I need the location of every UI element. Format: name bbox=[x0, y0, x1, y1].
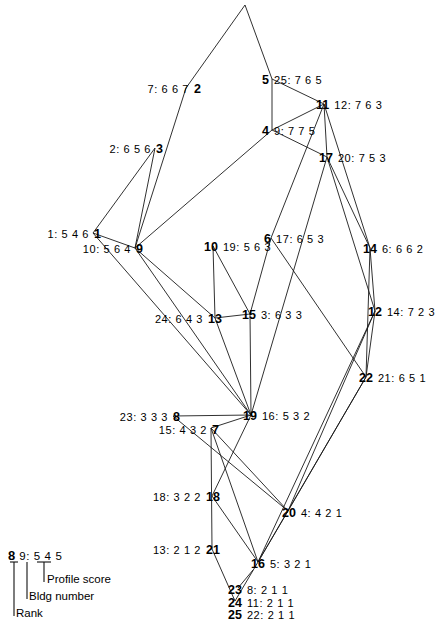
node-label-rank-17: 1720: 7 5 3 bbox=[319, 149, 386, 165]
node-label-rank-19: 1916: 5 3 2 bbox=[243, 407, 310, 423]
node-rank-15: 15 bbox=[242, 308, 256, 322]
edge-3-1 bbox=[93, 148, 155, 233]
node-profile-2: 7: 6 6 7 bbox=[148, 83, 190, 95]
node-rank-16: 16 bbox=[251, 557, 265, 571]
node-label-rank-9: 10: 5 6 49 bbox=[83, 240, 143, 256]
node-rank-12: 12 bbox=[368, 305, 382, 319]
node-profile-16: 5: 3 2 1 bbox=[270, 558, 312, 570]
node-profile-19: 16: 5 3 2 bbox=[262, 410, 310, 422]
node-label-rank-4: 49: 7 7 5 bbox=[262, 122, 315, 138]
node-profile-3: 2: 6 5 6 bbox=[110, 143, 152, 155]
edge-10-13 bbox=[213, 246, 215, 318]
node-profile-6: 17: 6 5 3 bbox=[276, 233, 324, 245]
legend-bldg-number-label: Bldg number bbox=[29, 590, 94, 602]
edge-13-19 bbox=[215, 318, 251, 415]
node-profile-1: 1: 5 4 6 bbox=[48, 228, 90, 240]
node-profile-4: 9: 7 7 5 bbox=[274, 125, 316, 137]
node-rank-20: 20 bbox=[282, 506, 296, 520]
edge-9-13 bbox=[135, 248, 215, 318]
edge-17-14 bbox=[327, 157, 370, 248]
node-rank-3: 3 bbox=[156, 142, 163, 156]
node-profile-13: 24: 6 4 3 bbox=[155, 313, 203, 325]
diagram-canvas: 7: 6 6 72 525: 7 6 5 1112: 7 6 3 49: 7 7… bbox=[0, 0, 442, 628]
node-rank-5: 5 bbox=[262, 73, 269, 87]
node-label-rank-16: 165: 3 2 1 bbox=[251, 555, 311, 571]
node-label-rank-25: 2522: 2 1 1 bbox=[228, 606, 295, 622]
edge-17-12 bbox=[327, 157, 375, 311]
edge-apex-2 bbox=[135, 5, 245, 248]
node-label-rank-5: 525: 7 6 5 bbox=[262, 71, 322, 87]
edge-15-19 bbox=[250, 314, 251, 415]
node-profile-5: 25: 7 6 5 bbox=[274, 74, 322, 86]
node-label-rank-14: 146: 6 6 2 bbox=[363, 240, 423, 256]
node-profile-22: 21: 6 5 1 bbox=[378, 372, 426, 384]
node-rank-13: 13 bbox=[208, 312, 222, 326]
node-profile-11: 12: 7 6 3 bbox=[334, 99, 382, 111]
node-label-rank-7: 15: 4 3 27 bbox=[159, 421, 219, 437]
legend: 89: 5 4 5 Profile score Bldg number Rank bbox=[8, 546, 198, 622]
node-rank-9: 9 bbox=[136, 242, 143, 256]
node-label-rank-6: 617: 6 5 3 bbox=[264, 230, 324, 246]
node-label-rank-22: 2221: 6 5 1 bbox=[359, 369, 426, 385]
edge-8-19 bbox=[173, 415, 251, 416]
node-label-rank-18: 18: 3 2 218 bbox=[153, 488, 220, 504]
node-label-rank-2: 7: 6 6 72 bbox=[148, 80, 201, 96]
node-profile-12: 14: 7 2 3 bbox=[387, 306, 435, 318]
node-label-rank-15: 153: 6 3 3 bbox=[242, 306, 302, 322]
node-rank-2: 2 bbox=[194, 82, 201, 96]
edge-11-14 bbox=[324, 104, 370, 248]
node-rank-17: 17 bbox=[319, 151, 333, 165]
node-profile-15: 3: 6 3 3 bbox=[261, 309, 303, 321]
node-rank-21: 21 bbox=[206, 543, 220, 557]
legend-profile-score-label: Profile score bbox=[47, 573, 111, 585]
node-profile-9: 10: 5 6 4 bbox=[83, 243, 131, 255]
node-label-rank-10: 1019: 5 6 3 bbox=[204, 238, 271, 254]
edge-10-15 bbox=[213, 246, 250, 314]
node-rank-14: 14 bbox=[363, 242, 377, 256]
node-profile-7: 15: 4 3 2 bbox=[159, 424, 207, 436]
node-label-rank-13: 24: 6 4 313 bbox=[155, 310, 222, 326]
legend-rank-label: Rank bbox=[16, 607, 43, 619]
edge-17-19 bbox=[251, 157, 327, 415]
edge-7-20 bbox=[211, 428, 288, 511]
node-profile-25: 22: 2 1 1 bbox=[247, 609, 295, 621]
node-profile-17: 20: 7 5 3 bbox=[338, 152, 386, 164]
node-rank-10: 10 bbox=[204, 240, 218, 254]
edge-apex-5 bbox=[245, 5, 272, 79]
node-label-rank-11: 1112: 7 6 3 bbox=[316, 96, 382, 112]
node-rank-7: 7 bbox=[212, 423, 219, 437]
node-label-rank-20: 204: 4 2 1 bbox=[282, 504, 342, 520]
node-rank-6: 6 bbox=[264, 232, 271, 246]
node-profile-20: 4: 4 2 1 bbox=[301, 507, 343, 519]
node-rank-1: 1 bbox=[94, 227, 101, 241]
node-label-rank-12: 1214: 7 2 3 bbox=[368, 303, 435, 319]
node-rank-11: 11 bbox=[316, 98, 329, 112]
node-label-rank-3: 2: 6 5 63 bbox=[110, 140, 163, 156]
edge-9-19 bbox=[135, 248, 251, 415]
node-rank-25: 25 bbox=[228, 608, 242, 622]
edge-12-16 bbox=[258, 311, 375, 562]
node-rank-19: 19 bbox=[243, 409, 257, 423]
node-rank-18: 18 bbox=[206, 490, 220, 504]
node-rank-22: 22 bbox=[359, 371, 373, 385]
node-rank-4: 4 bbox=[262, 124, 269, 138]
node-profile-18: 18: 3 2 2 bbox=[153, 491, 201, 503]
node-profile-14: 6: 6 6 2 bbox=[382, 243, 424, 255]
node-label-rank-1: 1: 5 4 61 bbox=[48, 225, 101, 241]
